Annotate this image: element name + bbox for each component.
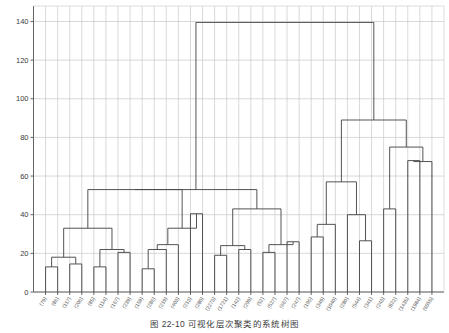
x-tick-label: (142) bbox=[229, 296, 241, 310]
x-tick-label: (1040) bbox=[325, 296, 338, 312]
y-tick-label: 100 bbox=[16, 94, 29, 103]
x-tick-label: (341) bbox=[362, 296, 374, 310]
x-tick-label: (79) bbox=[38, 296, 48, 307]
x-tick-label: (213) bbox=[181, 296, 193, 310]
y-tick-label: 120 bbox=[16, 56, 29, 65]
x-tick-label: (280) bbox=[338, 296, 350, 310]
x-tick-label: (527) bbox=[266, 296, 278, 310]
x-tick-label: (822) bbox=[386, 296, 398, 310]
x-tick-label: (247) bbox=[290, 296, 302, 310]
dendrogram-chart: 020406080100120140 (79)(86)(117)(206)(85… bbox=[0, 0, 449, 317]
x-tick-label: (6055) bbox=[421, 296, 434, 312]
x-tick-label: (2273) bbox=[204, 296, 217, 312]
x-tick-label: (196) bbox=[302, 296, 314, 310]
x-tick-label: (280) bbox=[193, 296, 205, 310]
x-tick-label: (286) bbox=[145, 296, 157, 310]
x-tick-label: (544) bbox=[350, 296, 362, 310]
x-tick-label: (86) bbox=[50, 296, 60, 307]
x-tick-label: (219) bbox=[157, 296, 169, 310]
y-tick-label: 80 bbox=[20, 133, 28, 142]
y-tick-label: 40 bbox=[20, 210, 28, 219]
x-tick-label: (1435) bbox=[397, 296, 410, 312]
x-axis-ticks bbox=[46, 292, 432, 295]
x-tick-label: (299) bbox=[242, 296, 254, 310]
y-tick-label: 140 bbox=[16, 17, 29, 26]
x-tick-label: (1984) bbox=[409, 296, 422, 312]
x-tick-label: (243) bbox=[374, 296, 386, 310]
x-tick-label: (117) bbox=[61, 296, 72, 309]
y-tick-label: 60 bbox=[20, 172, 28, 181]
x-tick-label: (167) bbox=[109, 296, 121, 310]
x-axis-tick-labels: (79)(86)(117)(206)(85)(114)(167)(239)(15… bbox=[38, 296, 434, 312]
figure-caption: 图 22-10 可视化层次聚类的系统树图 bbox=[0, 317, 449, 329]
x-tick-label: (667) bbox=[278, 296, 290, 310]
caption-text: 图 22-10 可视化层次聚类的系统树图 bbox=[150, 317, 299, 329]
y-axis-tick-labels: 020406080100120140 bbox=[16, 17, 29, 297]
x-tick-label: (85) bbox=[86, 296, 96, 307]
figure-container: 020406080100120140 (79)(86)(117)(206)(85… bbox=[0, 0, 449, 333]
x-tick-label: (403) bbox=[169, 296, 181, 310]
x-tick-label: (349) bbox=[314, 296, 326, 310]
x-tick-label: (239) bbox=[121, 296, 133, 310]
x-tick-label: (159) bbox=[133, 296, 145, 310]
y-tick-label: 20 bbox=[20, 249, 28, 258]
x-tick-label: (1721) bbox=[216, 296, 229, 312]
x-tick-label: (52) bbox=[255, 296, 265, 307]
x-tick-label: (206) bbox=[73, 296, 85, 310]
y-tick-label: 0 bbox=[24, 288, 28, 297]
x-tick-label: (114) bbox=[97, 296, 108, 309]
